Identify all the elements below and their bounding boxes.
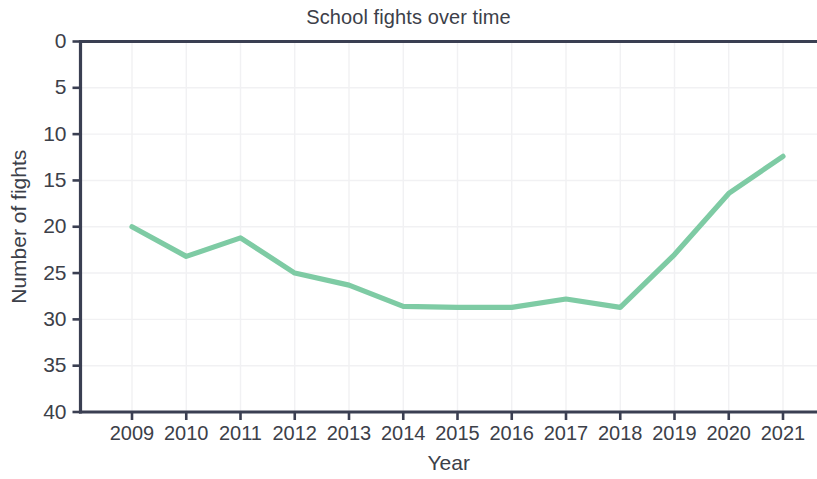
y-tick-label: 15 [43, 168, 66, 191]
y-tick-label: 25 [43, 261, 66, 284]
x-tick-label: 2015 [435, 422, 480, 444]
y-axis-label: Number of fights [7, 150, 30, 304]
x-axis-label: Year [428, 451, 470, 474]
y-tick-label: 20 [43, 214, 66, 237]
y-tick-labels: 0510152025303540 [43, 29, 66, 423]
x-tick-label: 2019 [652, 422, 697, 444]
y-tick-label: 0 [55, 29, 67, 52]
x-tick-label: 2011 [219, 422, 262, 444]
x-tick-label: 2021 [761, 422, 806, 444]
x-tick-label: 2016 [490, 422, 535, 444]
x-tick-label: 2010 [164, 422, 209, 444]
y-tick-label: 5 [55, 75, 67, 98]
grid-lines-horizontal [81, 42, 817, 413]
x-tick-label: 2018 [598, 422, 643, 444]
y-tick-label: 40 [43, 400, 66, 423]
y-tick-label: 35 [43, 353, 66, 376]
x-tick-label: 2009 [110, 422, 155, 444]
x-tick-labels: 2009201020112012201320142015201620172018… [110, 422, 806, 444]
x-tick-label: 2013 [327, 422, 372, 444]
x-tick-label: 2014 [381, 422, 426, 444]
x-tick-label: 2017 [544, 422, 589, 444]
chart-figure: School fights over time 0510152025303540… [0, 0, 817, 479]
y-tick-label: 30 [43, 307, 66, 330]
line-chart-plot: 0510152025303540 20092010201120122013201… [0, 0, 817, 479]
x-tick-label: 2020 [707, 422, 752, 444]
x-tick-label: 2012 [273, 422, 318, 444]
y-tick-label: 10 [43, 122, 66, 145]
